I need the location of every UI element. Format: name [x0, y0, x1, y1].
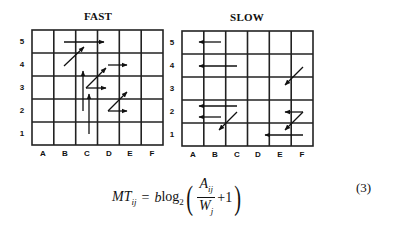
equation-coef: b	[154, 190, 161, 206]
arrow	[86, 68, 106, 88]
fraction-denominator: Wj	[197, 198, 215, 219]
slow-grid	[182, 31, 313, 146]
fraction-numerator: Aij	[197, 176, 215, 198]
equation-number: (3)	[356, 180, 371, 196]
equation-lhs: MTij	[112, 189, 136, 207]
equation-fraction: Aij Wj	[197, 176, 215, 219]
fast-arrows	[64, 42, 127, 134]
right-paren: )	[234, 181, 241, 215]
arrow	[64, 47, 84, 66]
equation-plus-one: +1	[217, 190, 232, 206]
arrow	[285, 67, 303, 85]
arrow	[219, 112, 237, 130]
arrow	[108, 92, 127, 111]
equation: MTij = b log2 ( Aij Wj +1 )	[112, 176, 244, 219]
arrow	[285, 112, 303, 130]
left-paren: (	[186, 181, 193, 215]
slow-arrows	[199, 42, 303, 135]
equation-log: log2	[161, 189, 183, 207]
equation-equals: =	[141, 190, 149, 206]
